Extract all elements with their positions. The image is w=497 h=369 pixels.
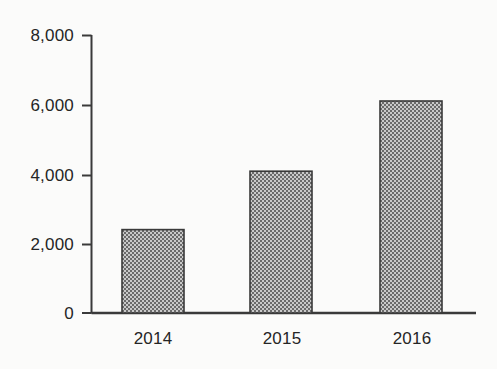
bar-2014 [122,230,184,313]
y-axis-label-6000: 6,000 [4,97,74,114]
y-axis-label-2000: 2,000 [4,236,74,253]
bar-2015 [250,171,312,313]
x-axis-label-2014: 2014 [113,330,193,347]
bar-chart: 8,000 6,000 4,000 2,000 0 2014 2015 2016 [0,0,497,369]
y-axis-label-4000: 4,000 [4,167,74,184]
y-axis-label-8000: 8,000 [4,27,74,44]
chart-canvas [0,0,497,369]
y-axis-label-0: 0 [4,305,74,322]
bar-2016 [380,101,442,313]
x-axis-label-2016: 2016 [372,330,452,347]
x-axis-label-2015: 2015 [242,330,322,347]
